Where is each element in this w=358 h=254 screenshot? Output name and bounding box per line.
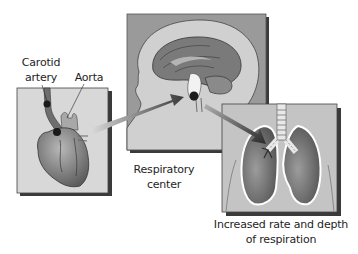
label-respiratory-line1: Respiratory — [128, 163, 200, 176]
label-carotid-line2: artery — [18, 71, 64, 84]
carotid-marker — [44, 101, 51, 108]
label-carotid-line1: Carotid — [18, 56, 64, 69]
label-result-line1: Increased rate and depth — [208, 218, 354, 231]
aorta-marker — [53, 128, 61, 136]
diagram-artwork — [0, 0, 358, 254]
label-increased-respiration: Increased rate and depth of respiration — [208, 218, 354, 246]
trachea-icon — [277, 104, 286, 140]
label-respiratory-center: Respiratory center — [128, 163, 200, 191]
label-aorta: Aorta — [72, 71, 106, 84]
lungs-panel — [222, 104, 341, 216]
label-respiratory-line2: center — [128, 178, 200, 191]
label-result-line2: of respiration — [208, 233, 354, 246]
heart-panel — [17, 84, 112, 196]
label-carotid-artery: Carotid artery — [18, 56, 64, 84]
respiratory-center-marker — [190, 92, 199, 101]
